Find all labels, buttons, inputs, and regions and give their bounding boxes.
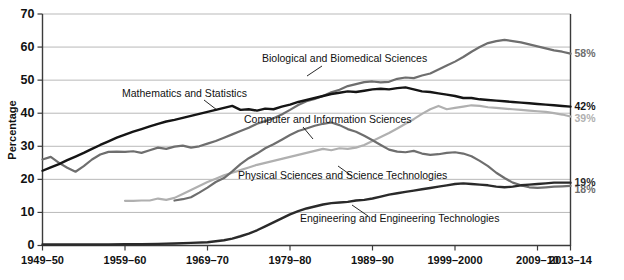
- y-tick-label: 0: [28, 238, 35, 252]
- percentage-line-chart: 010203040506070 1949–501959–601969–70197…: [0, 0, 624, 280]
- series-label-biological-and-biomedical-sciences: Biological and Biomedical Sciences: [262, 52, 427, 64]
- x-tick-label: 1999–2000: [427, 254, 482, 266]
- x-tick-label: 2013–14: [549, 254, 593, 266]
- series-label-physical-sciences-and-science-technologies: Physical Sciences and Science Technologi…: [238, 169, 447, 181]
- y-tick-label: 40: [21, 106, 35, 120]
- end-label-mathematics-and-statistics: 42%: [575, 100, 597, 112]
- chart-container: 010203040506070 1949–501959–601969–70197…: [0, 0, 624, 280]
- x-tick-label: 1979–80: [269, 254, 312, 266]
- x-tick-label: 1949–50: [21, 254, 64, 266]
- series-label-computer-and-information-sciences: Computer and Information Sciences: [244, 113, 412, 125]
- end-value-labels: 58%42%39%18%19%: [575, 47, 597, 195]
- end-label-engineering-and-engineering-technologies: 19%: [575, 176, 597, 188]
- y-tick-label: 60: [21, 40, 35, 54]
- y-tick-label: 20: [21, 172, 35, 186]
- leader-line: [307, 66, 322, 76]
- y-tick-label: 70: [21, 7, 35, 21]
- y-tick-label: 10: [21, 205, 35, 219]
- series-label-engineering-and-engineering-technologies: Engineering and Engineering Technologies: [300, 212, 499, 224]
- x-tick-label: 1969–70: [186, 254, 229, 266]
- y-axis-ticks: 010203040506070: [21, 7, 43, 253]
- end-label-biological-and-biomedical-sciences: 58%: [575, 47, 597, 59]
- leader-line: [204, 100, 217, 110]
- x-axis-ticks: 1949–501959–601969–701979–801989–901999–…: [21, 246, 593, 266]
- y-tick-label: 50: [21, 73, 35, 87]
- y-tick-label: 30: [21, 139, 35, 153]
- x-tick-label: 1989–90: [351, 254, 394, 266]
- y-axis-title: Percentage: [6, 100, 18, 159]
- series-label-mathematics-and-statistics: Mathematics and Statistics: [122, 87, 247, 99]
- end-label-physical-sciences-and-science-technologies: 39%: [575, 112, 597, 124]
- x-tick-label: 1959–60: [104, 254, 147, 266]
- series-annotations: Biological and Biomedical SciencesMathem…: [122, 52, 499, 224]
